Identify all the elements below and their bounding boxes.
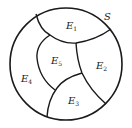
sample-space-label: S [104, 11, 111, 22]
region-label-e2: E2 [95, 60, 107, 72]
region-label-e5: E5 [50, 55, 62, 67]
region-label-e3: E3 [67, 95, 79, 107]
region-label-e1: E1 [65, 20, 77, 32]
region-label-e4: E4 [20, 73, 32, 85]
venn-partition-diagram: S E1 E2 E3 E4 E5 [0, 0, 132, 128]
diagram-svg: S E1 E2 E3 E4 E5 [0, 0, 132, 128]
boundary-e3 [47, 73, 82, 117]
